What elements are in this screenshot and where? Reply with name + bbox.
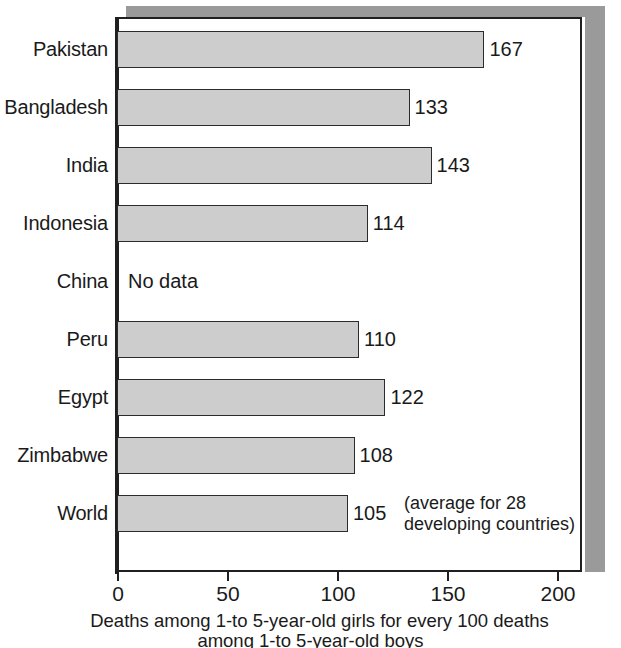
bar-value-label: 122 xyxy=(390,379,423,416)
bar-annotation-line-2: developing countries) xyxy=(404,514,575,535)
bar-value-label: 108 xyxy=(360,437,393,474)
category-label-peru: Peru xyxy=(0,321,108,358)
x-tick xyxy=(447,572,449,581)
bar-peru xyxy=(117,321,359,358)
bar-rows: Pakistan167Bangladesh133India143Indonesi… xyxy=(0,0,621,572)
x-tick-label: 200 xyxy=(540,581,575,607)
bar-egypt xyxy=(117,379,385,416)
bar-india xyxy=(117,147,432,184)
bar-indonesia xyxy=(117,205,368,242)
category-label-pakistan: Pakistan xyxy=(0,31,108,68)
bar-value-label: 105 xyxy=(353,495,386,532)
category-label-bangladesh: Bangladesh xyxy=(0,89,108,126)
bar-zimbabwe xyxy=(117,437,355,474)
bar-world xyxy=(117,495,348,532)
x-tick xyxy=(227,572,229,581)
caption-line-1: Deaths among 1-to 5-year-old girls for e… xyxy=(18,611,621,631)
category-label-world: World xyxy=(0,495,108,532)
bar-value-label: 143 xyxy=(437,147,470,184)
bar-row: World105(average for 28developing countr… xyxy=(0,495,621,532)
chart-page: Pakistan167Bangladesh133India143Indonesi… xyxy=(0,0,621,648)
x-axis-ticks: 050100150200 xyxy=(0,572,621,582)
bar-row: India143 xyxy=(0,147,621,184)
bar-value-label: 167 xyxy=(489,31,522,68)
category-label-zimbabwe: Zimbabwe xyxy=(0,437,108,474)
bar-pakistan xyxy=(117,31,484,68)
x-tick-label: 100 xyxy=(320,581,355,607)
x-tick-label: 50 xyxy=(216,581,239,607)
bar-row: Egypt122 xyxy=(0,379,621,416)
x-tick xyxy=(117,572,119,581)
bar-bangladesh xyxy=(117,89,410,126)
x-tick xyxy=(557,572,559,581)
x-tick-label: 0 xyxy=(112,581,124,607)
category-label-indonesia: Indonesia xyxy=(0,205,108,242)
caption-line-2: among 1-to 5-year-old boys xyxy=(0,631,621,648)
bar-value-label: 133 xyxy=(415,89,448,126)
bar-row: Zimbabwe108 xyxy=(0,437,621,474)
bar-row: Peru110 xyxy=(0,321,621,358)
bar-row: Indonesia114 xyxy=(0,205,621,242)
x-tick xyxy=(337,572,339,581)
bar-row: ChinaNo data xyxy=(0,263,621,300)
no-data-text: No data xyxy=(128,263,198,300)
category-label-china: China xyxy=(0,263,108,300)
category-label-india: India xyxy=(0,147,108,184)
bar-value-label: 114 xyxy=(373,205,405,242)
bar-row: Pakistan167 xyxy=(0,31,621,68)
bar-value-label: 110 xyxy=(364,321,396,358)
chart-caption: Deaths among 1-to 5-year-old girls for e… xyxy=(0,611,621,648)
bar-annotation: (average for 28developing countries) xyxy=(404,493,575,535)
x-tick-label: 150 xyxy=(430,581,465,607)
bar-annotation-line-1: (average for 28 xyxy=(404,493,575,514)
bar-row: Bangladesh133 xyxy=(0,89,621,126)
category-label-egypt: Egypt xyxy=(0,379,108,416)
